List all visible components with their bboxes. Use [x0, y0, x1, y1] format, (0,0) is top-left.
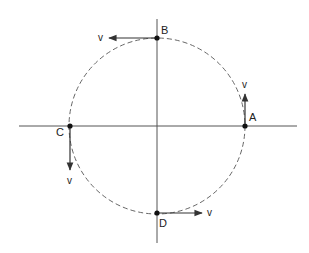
point-d	[154, 210, 159, 215]
point-c-label: C	[56, 126, 64, 138]
velocity-label-b: v	[98, 32, 103, 43]
point-b-group: B v	[98, 24, 168, 43]
circular-motion-diagram: A v B v C v D v	[0, 0, 309, 253]
point-a-group: A v	[242, 79, 257, 129]
point-b-label: B	[161, 24, 168, 36]
velocity-label-a: v	[242, 79, 247, 90]
point-d-group: D v	[154, 207, 212, 229]
point-a-label: A	[249, 111, 257, 123]
point-d-label: D	[159, 217, 167, 229]
velocity-label-d: v	[207, 207, 212, 218]
point-c-group: C v	[56, 123, 73, 186]
point-c	[67, 123, 72, 128]
velocity-label-c: v	[67, 175, 72, 186]
point-a	[242, 123, 247, 128]
point-b	[154, 35, 159, 40]
